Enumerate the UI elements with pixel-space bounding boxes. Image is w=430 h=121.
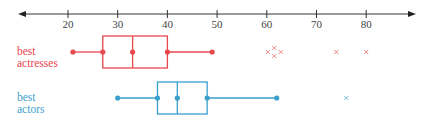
outlier-x-icon [272,46,276,50]
tick-label: 50 [212,18,224,30]
five-number-dot [155,95,160,100]
five-number-dot [165,49,170,54]
outlier-x-icon [364,50,368,54]
label-line: best [17,91,44,103]
five-number-dot [100,49,105,54]
right-arrow-icon [408,11,416,17]
box-plots [70,36,368,114]
five-number-dot [115,95,120,100]
tick-label: 70 [311,18,323,30]
tick-label: 60 [261,18,273,30]
outlier-x-icon [279,50,283,54]
box-plot-chart: 20304050607080 [0,0,430,121]
number-line-axis: 20304050607080 [18,10,416,30]
outlier-x-icon [344,96,348,100]
iqr-box [157,82,207,114]
label-line: best [17,45,58,57]
tick-label: 40 [162,18,174,30]
label-line: actors [17,103,44,115]
tick-label: 20 [63,18,75,30]
five-number-dot [70,49,75,54]
five-number-dot [130,49,135,54]
label-line: actresses [17,57,58,69]
outlier-x-icon [272,54,276,58]
five-number-dot [175,95,180,100]
outlier-x-icon [334,50,338,54]
box-plot-best-actors [115,82,348,114]
series-label-best-actors: best actors [17,91,44,115]
outlier-x-icon [266,50,270,54]
tick-label: 30 [112,18,124,30]
five-number-dot [210,49,215,54]
five-number-dot [274,95,279,100]
box-plot-best-actresses [70,36,368,68]
left-arrow-icon [18,11,26,17]
tick-label: 80 [361,18,373,30]
five-number-dot [205,95,210,100]
series-label-best-actresses: best actresses [17,45,58,69]
